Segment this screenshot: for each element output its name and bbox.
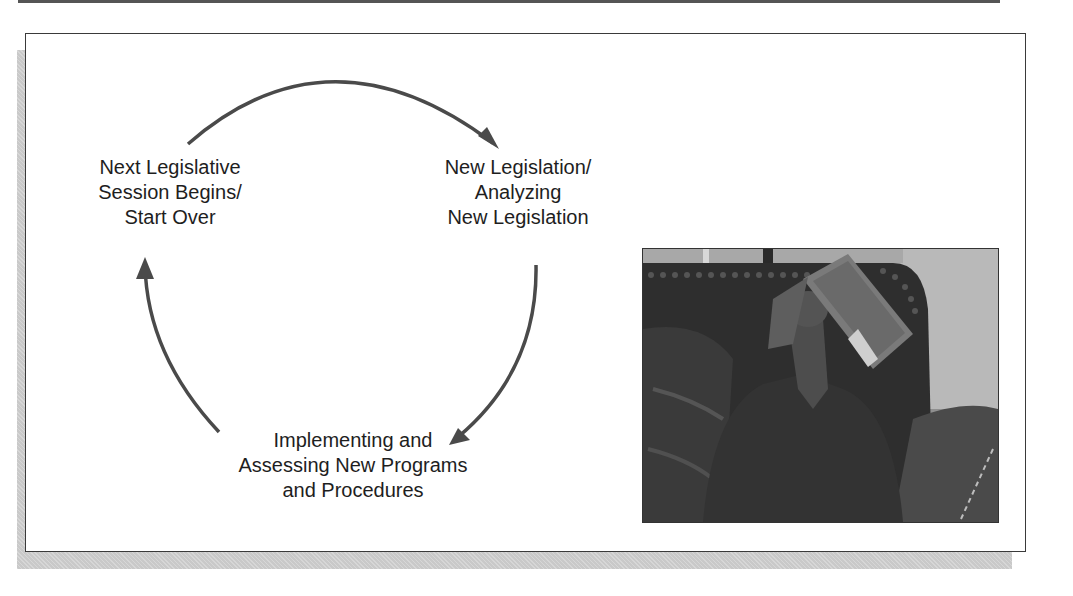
photo-illustration (643, 249, 998, 522)
stage-line: Next Legislative (80, 155, 260, 180)
stage-implementing-assessing: Implementing and Assessing New Programs … (213, 428, 493, 503)
stage-next-legislative-session: Next Legislative Session Begins/ Start O… (80, 155, 260, 230)
stage-line: Start Over (80, 205, 260, 230)
stage-line: and Procedures (213, 478, 493, 503)
stage-new-legislation: New Legislation/ Analyzing New Legislati… (418, 155, 618, 230)
stage-line: Assessing New Programs (213, 453, 493, 478)
photo-person-magazine-on-face (642, 248, 999, 523)
stage-line: Implementing and (213, 428, 493, 453)
stage-line: Analyzing (418, 180, 618, 205)
stage-line: New Legislation (418, 205, 618, 230)
arrow-right-icon (458, 265, 536, 437)
arrow-left-icon (145, 265, 219, 432)
stage-line: Session Begins/ (80, 180, 260, 205)
stage-line: New Legislation/ (418, 155, 618, 180)
arrow-top-icon (188, 82, 493, 144)
